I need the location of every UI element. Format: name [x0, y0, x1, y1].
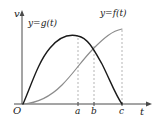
tick-label-b: b — [91, 107, 97, 116]
x-axis-label: t — [140, 107, 144, 117]
curve-label-g: y=g(t) — [28, 19, 57, 28]
tick-label-a: a — [75, 107, 80, 116]
graph-canvas — [0, 0, 157, 123]
x-axis-arrow-icon — [146, 102, 152, 107]
y-axis-label: v — [14, 9, 20, 19]
velocity-time-graph-figure: v t O a b c y=g(t) y=f(t) — [0, 0, 157, 123]
tick-label-c: c — [119, 107, 124, 116]
curve-label-f: y=f(t) — [100, 9, 127, 18]
curve-g — [23, 35, 122, 104]
origin-label: O — [13, 106, 21, 116]
y-axis-arrow-icon — [20, 10, 25, 16]
